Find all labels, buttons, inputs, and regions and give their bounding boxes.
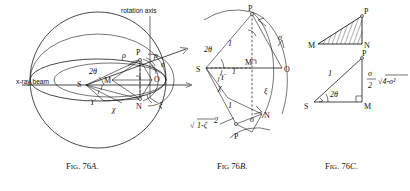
radical-exp-label: 2: [214, 116, 218, 125]
bottom-s-label: S: [304, 102, 308, 111]
chi-label: χ: [111, 105, 116, 114]
sigma-lower-label-b: σ: [250, 115, 255, 124]
side-one-label-c: 1: [328, 69, 332, 78]
xi-label: ξ: [159, 101, 163, 110]
radical-leader: [220, 118, 234, 124]
one-middle-label: 1: [232, 67, 236, 76]
point-p-bottom-label: P: [234, 132, 239, 141]
point-o-label: O: [154, 75, 160, 84]
right-angle-tick-b: [252, 60, 256, 64]
right-angle-tick: [136, 76, 140, 80]
bottom-m-label: M: [364, 102, 371, 111]
fraction-denominator: 2: [368, 81, 372, 90]
point-n-label: N: [136, 102, 142, 111]
expression-c: σ 2 √4-σ²: [367, 69, 408, 90]
node-p-c-top: [361, 15, 364, 18]
point-o-label-b: O: [284, 65, 290, 74]
caption-76c-rest: . 76: [337, 161, 350, 171]
angle-2theta-label-c: 2θ: [330, 90, 338, 99]
fig-76c-diagram: M P N P S M 1 2θ σ 2 √4-σ²: [300, 2, 410, 162]
right-angle-tick-c: [356, 96, 362, 102]
caption-76b-rest: 76: [229, 161, 240, 171]
line-upsilon-n: [104, 99, 140, 101]
node-n: [139, 98, 142, 101]
point-p-label: P: [136, 48, 141, 57]
point-n-label-b: N: [264, 111, 270, 120]
line-pbottom-tip: [236, 124, 252, 132]
expr-radical-label: √4-σ²: [378, 77, 396, 86]
line-chi-n: [228, 98, 262, 114]
angle-arc-chi-b: [218, 77, 219, 82]
chi-label-b: χ: [217, 83, 222, 92]
sigma-arrow-lower: [254, 106, 262, 114]
xi-label-b: ξ: [264, 87, 268, 96]
point-s-label-b: S: [196, 65, 200, 74]
point-m-label-b: M: [245, 58, 252, 67]
triangle-mpn: [318, 16, 362, 44]
meridian-arc-inner: [252, 12, 274, 118]
radical-body-label: 1-ζ: [197, 121, 208, 130]
caption-fig-76c: FIG. 76C.: [325, 161, 358, 171]
caption-76b-suffix: .: [245, 161, 247, 171]
point-m-label: M: [104, 76, 111, 85]
upsilon-label-b: ϒ: [220, 73, 226, 82]
one-lower-label: 1: [228, 101, 232, 110]
angle-arc-2theta-b: [221, 59, 224, 68]
fig-76a-diagram: rotation axis x-ray beam 2θ S M O N P ρ …: [0, 2, 200, 162]
caption-76c-suffix: .: [356, 161, 358, 171]
fig-76b-diagram: P S M O N P 2θ 1 1 1 σ σ ξ ϒ χ √ 1-ζ 2: [190, 2, 310, 162]
sphere-upper-arc: [30, 34, 166, 80]
radical-expression-b: √ 1-ζ 2: [190, 116, 218, 130]
angle-2theta-label: 2θ: [89, 67, 97, 76]
point-s-label: S: [77, 80, 81, 89]
xray-beam-label: x-ray beam: [16, 78, 49, 86]
bottom-p-label: P: [362, 49, 367, 58]
node-m-b: [251, 67, 254, 70]
figure-plate: rotation axis x-ray beam 2θ S M O N P ρ …: [0, 0, 410, 191]
caption-76a-suffix: .: [96, 161, 98, 171]
caption-76a-rest: . 76: [78, 161, 91, 171]
meridian-arc-top: [204, 10, 252, 20]
rho-right-label: ρ: [153, 51, 158, 60]
caption-row: FIG. 76A. FIG 76B. FIG. 76C.: [0, 161, 410, 181]
line-pbottom-n: [236, 114, 262, 124]
angle-2theta-label-b: 2θ: [204, 45, 212, 54]
point-p-top-label: P: [248, 4, 253, 13]
one-upper-label: 1: [228, 39, 232, 48]
fraction-numerator: σ: [368, 69, 373, 78]
radical-sign-label: √: [190, 121, 195, 130]
upsilon-label: ϒ: [90, 98, 96, 107]
angle-tick-arrow-c: [319, 98, 323, 102]
caption-fig-76b: FIG 76B.: [217, 161, 247, 171]
angle-arc-upsilon: [98, 90, 99, 94]
caption-fig-76a: FIG. 76A.: [66, 161, 98, 171]
rho-left-label: ρ: [121, 51, 126, 60]
top-p-label: P: [364, 7, 369, 16]
rotation-axis-label: rotation axis: [121, 7, 157, 14]
node-p-bottom: [235, 123, 238, 126]
meridian-arc-right: [252, 12, 287, 114]
angle-arc-2theta-c: [326, 94, 328, 102]
triangle-smp: [314, 58, 362, 102]
top-m-label: M: [308, 41, 315, 50]
node-p: [139, 59, 142, 62]
